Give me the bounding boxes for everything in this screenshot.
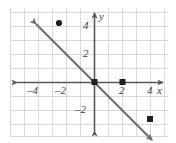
y-tick-label-pos2: 2 bbox=[83, 48, 89, 59]
y-tick-label-neg2: –2 bbox=[75, 104, 86, 115]
y-axis-label: y bbox=[99, 11, 104, 22]
x-tick-label-pos4: 4 bbox=[147, 85, 153, 96]
grid-horizontal-lines bbox=[10, 13, 168, 137]
x-tick-label-neg4: –4 bbox=[27, 85, 38, 96]
data-points bbox=[56, 20, 153, 122]
x-tick-label-pos2: 2 bbox=[119, 85, 125, 96]
data-point bbox=[92, 79, 98, 85]
y-tick-label-pos4: 4 bbox=[83, 20, 89, 31]
coordinate-plane-figure: –4 –2 2 4 4 2 –2 x y bbox=[0, 0, 176, 143]
data-point bbox=[147, 116, 153, 122]
x-tick-label-neg2: –2 bbox=[55, 85, 66, 96]
x-axis-label: x bbox=[157, 85, 162, 96]
data-point bbox=[56, 20, 62, 26]
